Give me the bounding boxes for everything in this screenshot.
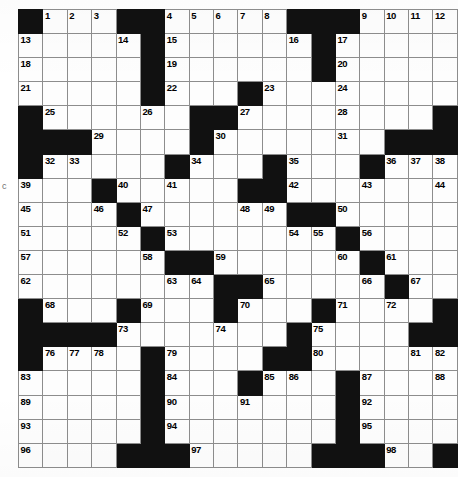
crossword-cell[interactable]: 7	[238, 10, 262, 34]
crossword-cell[interactable]	[409, 58, 433, 82]
crossword-cell[interactable]: 10	[384, 10, 408, 34]
crossword-cell[interactable]	[262, 250, 286, 274]
crossword-cell[interactable]: 61	[384, 250, 408, 274]
crossword-cell[interactable]: 38	[433, 154, 458, 178]
crossword-cell[interactable]	[238, 323, 262, 347]
crossword-cell[interactable]: 88	[433, 371, 458, 395]
crossword-cell[interactable]	[165, 130, 189, 154]
crossword-cell[interactable]: 22	[165, 82, 189, 106]
crossword-cell[interactable]: 78	[92, 347, 116, 371]
crossword-cell[interactable]	[67, 34, 91, 58]
crossword-cell[interactable]: 13	[19, 34, 43, 58]
crossword-cell[interactable]	[262, 443, 286, 467]
crossword-cell[interactable]: 96	[19, 443, 43, 467]
crossword-cell[interactable]	[287, 299, 311, 323]
crossword-cell[interactable]	[116, 371, 140, 395]
crossword-cell[interactable]	[384, 419, 408, 443]
crossword-cell[interactable]	[67, 443, 91, 467]
crossword-cell[interactable]: 12	[433, 10, 458, 34]
crossword-cell[interactable]	[335, 275, 359, 299]
crossword-cell[interactable]	[311, 106, 335, 130]
crossword-cell[interactable]	[409, 419, 433, 443]
crossword-cell[interactable]	[140, 178, 164, 202]
crossword-cell[interactable]	[335, 323, 359, 347]
crossword-cell[interactable]: 21	[19, 82, 43, 106]
crossword-cell[interactable]	[433, 202, 458, 226]
crossword-cell[interactable]	[189, 202, 213, 226]
crossword-cell[interactable]: 39	[19, 178, 43, 202]
crossword-cell[interactable]	[360, 82, 384, 106]
crossword-cell[interactable]	[214, 34, 238, 58]
crossword-cell[interactable]: 87	[360, 371, 384, 395]
crossword-cell[interactable]	[67, 58, 91, 82]
crossword-cell[interactable]: 5	[189, 10, 213, 34]
crossword-cell[interactable]	[433, 395, 458, 419]
crossword-cell[interactable]	[238, 443, 262, 467]
crossword-cell[interactable]	[116, 154, 140, 178]
crossword-cell[interactable]	[214, 419, 238, 443]
crossword-cell[interactable]	[238, 419, 262, 443]
crossword-grid-container[interactable]: 1234567891011121314151617181920212223242…	[18, 9, 458, 468]
crossword-cell[interactable]	[67, 371, 91, 395]
crossword-cell[interactable]	[43, 34, 67, 58]
crossword-cell[interactable]: 98	[384, 443, 408, 467]
crossword-cell[interactable]: 32	[43, 154, 67, 178]
crossword-cell[interactable]: 62	[19, 275, 43, 299]
crossword-cell[interactable]: 93	[19, 419, 43, 443]
crossword-cell[interactable]	[116, 130, 140, 154]
crossword-cell[interactable]: 86	[287, 371, 311, 395]
crossword-cell[interactable]: 6	[214, 10, 238, 34]
crossword-cell[interactable]	[214, 226, 238, 250]
crossword-cell[interactable]	[165, 299, 189, 323]
crossword-cell[interactable]: 95	[360, 419, 384, 443]
crossword-cell[interactable]: 30	[214, 130, 238, 154]
crossword-cell[interactable]: 85	[262, 371, 286, 395]
crossword-cell[interactable]	[384, 178, 408, 202]
crossword-cell[interactable]	[165, 106, 189, 130]
crossword-cell[interactable]	[238, 226, 262, 250]
crossword-cell[interactable]	[189, 178, 213, 202]
crossword-cell[interactable]: 94	[165, 419, 189, 443]
crossword-cell[interactable]: 23	[262, 82, 286, 106]
crossword-cell[interactable]	[116, 275, 140, 299]
crossword-cell[interactable]: 24	[335, 82, 359, 106]
crossword-cell[interactable]	[360, 347, 384, 371]
crossword-cell[interactable]	[238, 130, 262, 154]
crossword-cell[interactable]	[92, 371, 116, 395]
crossword-cell[interactable]	[116, 82, 140, 106]
crossword-cell[interactable]: 4	[165, 10, 189, 34]
crossword-cell[interactable]: 52	[116, 226, 140, 250]
crossword-cell[interactable]	[287, 275, 311, 299]
crossword-cell[interactable]: 1	[43, 10, 67, 34]
crossword-cell[interactable]	[189, 299, 213, 323]
crossword-cell[interactable]	[67, 419, 91, 443]
crossword-cell[interactable]	[67, 106, 91, 130]
crossword-cell[interactable]: 16	[287, 34, 311, 58]
crossword-cell[interactable]	[92, 250, 116, 274]
crossword-cell[interactable]	[433, 82, 458, 106]
crossword-cell[interactable]	[287, 58, 311, 82]
crossword-cell[interactable]	[214, 58, 238, 82]
crossword-cell[interactable]: 59	[214, 250, 238, 274]
crossword-cell[interactable]	[92, 395, 116, 419]
crossword-cell[interactable]	[311, 130, 335, 154]
crossword-cell[interactable]	[311, 371, 335, 395]
crossword-cell[interactable]: 36	[384, 154, 408, 178]
crossword-cell[interactable]	[409, 299, 433, 323]
crossword-cell[interactable]	[287, 395, 311, 419]
crossword-cell[interactable]	[140, 275, 164, 299]
crossword-cell[interactable]	[165, 323, 189, 347]
crossword-cell[interactable]	[384, 34, 408, 58]
crossword-cell[interactable]	[262, 34, 286, 58]
crossword-cell[interactable]	[311, 275, 335, 299]
crossword-cell[interactable]: 54	[287, 226, 311, 250]
crossword-cell[interactable]: 57	[19, 250, 43, 274]
crossword-cell[interactable]	[433, 419, 458, 443]
crossword-cell[interactable]	[140, 154, 164, 178]
crossword-cell[interactable]	[92, 419, 116, 443]
crossword-cell[interactable]	[214, 371, 238, 395]
crossword-cell[interactable]	[409, 395, 433, 419]
crossword-cell[interactable]: 8	[262, 10, 286, 34]
crossword-cell[interactable]	[238, 347, 262, 371]
crossword-cell[interactable]: 19	[165, 58, 189, 82]
